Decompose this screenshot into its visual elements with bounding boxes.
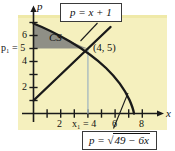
p-axis-label: p (37, 0, 43, 12)
demand-equation-prefix: p = (89, 134, 107, 146)
demand-equation-radicand: 49 − 6x (113, 133, 149, 146)
p-axis-arrowhead (30, 6, 36, 13)
supply-equation-text: p = x + 1 (70, 6, 112, 18)
y-tick-label-6: 6 (22, 29, 27, 40)
x-tick-label-2: 2 (57, 118, 62, 129)
y-tick-label-4: 4 (22, 55, 27, 66)
x1-value-label: x₁ = 4 (72, 118, 96, 129)
intersection-point-label: (4, 5) (93, 42, 116, 53)
demand-equation-callout: p = √49 − 6x (82, 131, 157, 150)
surplus-region-label: CS (49, 31, 62, 43)
supply-equation-callout: p = x + 1 (60, 3, 122, 22)
p1-value-label: p₁ = 5 (1, 42, 25, 53)
y-tick-label-2: 2 (22, 81, 27, 92)
x-tick-label-8: 8 (139, 118, 144, 129)
x-tick-label-6: 6 (112, 118, 117, 129)
x-axis-label: x (166, 107, 171, 119)
